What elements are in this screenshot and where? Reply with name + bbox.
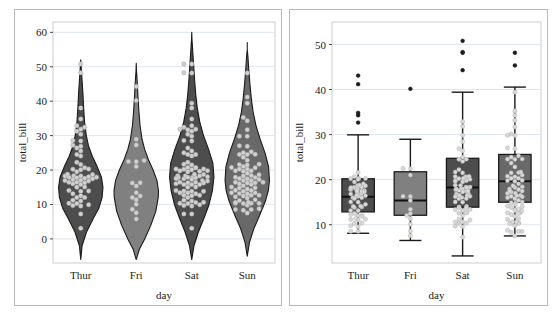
x-tick-label: Sat [185, 269, 199, 281]
swarm-point [130, 181, 135, 186]
swarm-point [194, 165, 199, 170]
swarm-point [461, 133, 465, 137]
swarm-point [134, 159, 139, 164]
swarm-point [241, 115, 246, 120]
swarm-point [513, 179, 517, 183]
swarm-point [257, 177, 262, 182]
swarm-point [362, 190, 366, 194]
swarm-point [249, 188, 254, 193]
swarm-point [509, 155, 513, 159]
swarm-point [360, 214, 364, 218]
swarm-point [356, 177, 360, 181]
y-tick-label: 10 [36, 198, 48, 210]
swarm-point [245, 158, 250, 163]
swarm-point [505, 179, 509, 183]
y-tick-label: 50 [315, 39, 327, 51]
swarm-point [408, 167, 412, 171]
swarm-point [516, 154, 520, 158]
swarm-point [257, 201, 262, 206]
swarm-point [233, 194, 238, 199]
swarm-point [520, 189, 524, 193]
swarm-point [349, 217, 353, 221]
swarm-point [461, 171, 465, 175]
swarm-point [241, 174, 246, 179]
swarm-point [461, 149, 465, 153]
swarm-point [186, 201, 191, 206]
x-tick-label: Fri [130, 269, 143, 281]
swarm-point [190, 139, 195, 144]
swarm-point [126, 159, 131, 164]
swarm-point [360, 221, 364, 225]
swarm-point [453, 179, 457, 183]
swarm-point [190, 149, 195, 154]
swarm-point [457, 193, 461, 197]
swarm-point [94, 175, 99, 180]
swarm-point [513, 90, 517, 94]
swarm-point [408, 198, 412, 202]
swarm-point [190, 106, 195, 111]
swarm-point [178, 191, 183, 196]
swarm-point [182, 138, 187, 143]
swarm-point [356, 209, 360, 213]
swarm-point [245, 71, 250, 76]
swarm-point [237, 167, 242, 172]
swarm-point [457, 157, 461, 161]
swarm-point [363, 194, 367, 198]
swarm-point [75, 195, 80, 200]
swarm-point [205, 175, 210, 180]
swarm-point [453, 224, 457, 228]
swarm-point [356, 225, 360, 229]
swarm-point [457, 211, 461, 215]
swarm-point [75, 152, 80, 157]
swarm-point [79, 168, 84, 173]
swarm-point [71, 191, 76, 196]
swarm-point [190, 163, 195, 168]
y-tick-label: 30 [315, 129, 327, 141]
swarm-point [71, 138, 76, 143]
outlier-point [356, 121, 360, 125]
swarm-point [461, 119, 465, 123]
swarm-point [514, 220, 518, 224]
swarm-point [79, 189, 84, 194]
outlier-point [356, 82, 360, 86]
swarm-point [134, 98, 139, 103]
swarm-point [190, 226, 195, 231]
swarm-point [193, 191, 198, 196]
swarm-point [253, 152, 258, 157]
swarm-point [190, 71, 195, 76]
swarm-point [401, 194, 405, 198]
swarm-point [257, 172, 262, 177]
swarm-point [509, 205, 513, 209]
swarm-point [134, 164, 139, 169]
swarm-point [134, 84, 139, 89]
swarm-point [257, 206, 262, 211]
box-swarm-panel: 1020304050total_billdayThurFriSatSun [289, 9, 548, 306]
y-tick-label: 20 [36, 164, 48, 176]
swarm-point [352, 196, 356, 200]
swarm-point [237, 162, 242, 167]
swarm-point [190, 101, 195, 106]
box-swarm-plot: 1020304050total_billdayThurFriSatSun [290, 10, 547, 305]
swarm-point [257, 193, 262, 198]
swarm-point [193, 127, 198, 131]
swarm-point [79, 132, 84, 137]
swarm-point [193, 185, 198, 190]
swarm-point [516, 229, 520, 233]
swarm-point [257, 162, 262, 167]
swarm-point [245, 101, 250, 106]
swarm-point [79, 174, 84, 179]
swarm-point [138, 194, 143, 199]
swarm-point [461, 214, 465, 218]
swarm-point [130, 207, 135, 212]
swarm-point [513, 113, 517, 117]
swarm-point [513, 202, 517, 206]
swarm-point [186, 160, 191, 165]
swarm-point [190, 134, 195, 139]
swarm-point [178, 127, 183, 131]
swarm-point [349, 208, 353, 212]
swarm-point [190, 123, 195, 128]
swarm-point [467, 174, 471, 178]
y-tick-label: 0 [42, 233, 48, 245]
swarm-point [190, 117, 195, 122]
swarm-point [245, 211, 250, 216]
